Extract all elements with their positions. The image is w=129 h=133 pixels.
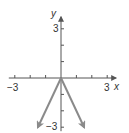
right-branch <box>61 78 84 127</box>
x-tick-label-max: 3 <box>104 82 110 93</box>
y-axis-label: y <box>50 8 57 19</box>
left-branch <box>38 78 61 127</box>
y-tick-label-min: −3 <box>46 121 58 132</box>
x-axis-label: x <box>113 81 120 92</box>
x-tick-label-min: −3 <box>7 82 19 93</box>
graph: y x −3 3 3 −3 <box>0 0 129 133</box>
y-tick-label-max: 3 <box>53 23 59 34</box>
